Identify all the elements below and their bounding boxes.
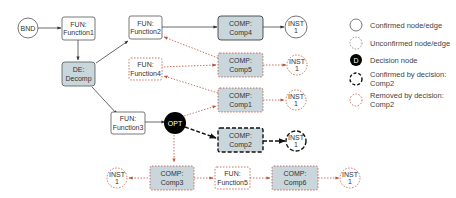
node-label: Comp5 [229,66,252,74]
node-label: 1 [115,178,119,185]
edge-function4-comp5 [161,65,216,67]
node-inst-comp4[interactable]: INST 1 [285,16,307,38]
node-label: 1 [294,100,298,107]
decision-glyph: D [353,57,358,64]
node-type: INST [288,134,305,141]
legend-label: Confirmed by decision: [370,70,446,79]
node-comp3[interactable]: COMP: Comp3 [150,166,194,190]
node-inst-comp1[interactable]: INST 1 [286,90,306,110]
unconfirmed-swatch-icon [350,37,362,49]
node-label: Function3 [113,124,144,131]
node-type: COMP: [229,57,252,64]
node-type: COMP: [229,132,252,139]
legend-item-decision: D Decision node [350,54,418,66]
node-label: Function1 [63,29,94,36]
edge-opt-comp2 [185,127,216,138]
node-function2[interactable]: FUN: Function2 [129,16,162,39]
node-comp5[interactable]: COMP: Comp5 [218,53,263,77]
node-comp4[interactable]: COMP: Comp4 [218,16,263,40]
node-label: 1 [294,141,298,148]
legend-item-confirmed: Confirmed node/edge [350,19,442,31]
node-label: BND [21,25,36,32]
legend-label: Removed by decision: [370,91,444,100]
legend-item-removed-by-decision: Removed by decision: Comp2 [350,91,444,109]
node-type: INST [109,171,126,178]
legend-item-unconfirmed: Unconfirmed node/edge [350,37,450,49]
legend-item-confirmed-by-decision: Confirmed by decision: Comp2 [350,70,446,88]
legend-label-line2: Comp2 [370,79,394,88]
node-type: FUN: [137,61,153,68]
node-label: Comp3 [161,179,184,187]
confirmed-swatch-icon [350,19,362,31]
edge-comp5-function2 [164,37,218,58]
node-type: DE: [73,66,85,73]
node-label: Function5 [217,179,248,186]
node-inst-comp2[interactable]: INST 1 [286,131,306,151]
node-function3[interactable]: FUN: Function3 [111,112,145,134]
node-label: 1 [295,65,299,72]
edge-decomp-function3 [92,87,117,114]
node-type: INST [288,93,305,100]
node-label: 1 [348,178,352,185]
legend-label: Decision node [370,56,418,65]
node-type: INST [342,171,359,178]
node-label: Comp2 [229,141,252,149]
node-inst-comp3[interactable]: INST 1 [107,168,127,188]
node-comp6[interactable]: COMP: Comp6 [272,166,318,190]
node-label: OPT [168,120,183,127]
node-type: FUN: [120,115,136,122]
node-type: INST [289,58,306,65]
node-type: COMP: [161,170,184,177]
node-label: Comp1 [229,101,252,109]
node-label: Function4 [130,70,161,77]
node-function1[interactable]: FUN: Function1 [62,17,95,40]
legend-label-line2: Comp2 [370,100,394,109]
node-type: COMP: [229,92,252,99]
node-type: COMP: [284,170,307,177]
node-type: FUN: [137,20,153,27]
node-bnd[interactable]: BND [18,18,38,38]
node-inst-comp6[interactable]: INST 1 [340,168,360,188]
node-comp2[interactable]: COMP: Comp2 [218,128,263,152]
node-comp1[interactable]: COMP: Comp1 [218,88,263,112]
node-label: Decomp [65,75,91,83]
node-type: FUN: [70,21,86,28]
node-decomp[interactable]: DE: Decomp [62,62,95,86]
legend-label: Unconfirmed node/edge [370,39,450,48]
decision-graph-diagram: BND FUN: Function1 DE: Decomp FUN: Funct… [0,0,456,198]
node-function5[interactable]: FUN: Function5 [215,167,250,189]
node-label: Function2 [130,28,161,35]
node-label: Comp4 [229,29,252,37]
node-label: 1 [294,27,298,34]
node-inst-comp5[interactable]: INST 1 [287,55,307,75]
node-function4[interactable]: FUN: Function4 [129,58,162,80]
edge-comp1-function4 [164,76,218,93]
node-opt-decision[interactable]: OPT [164,112,186,134]
confirmed-by-decision-swatch-icon [350,73,362,85]
node-type: INST [288,20,305,27]
legend-label: Confirmed node/edge [370,21,442,30]
edge-decomp-function2 [96,41,128,63]
node-type: COMP: [229,20,252,27]
edge-opt-comp1 [184,106,216,116]
legend: Confirmed node/edge Unconfirmed node/edg… [350,19,450,109]
node-type: FUN: [224,170,240,177]
removed-by-decision-swatch-icon [350,94,362,106]
node-label: Comp6 [284,179,307,187]
